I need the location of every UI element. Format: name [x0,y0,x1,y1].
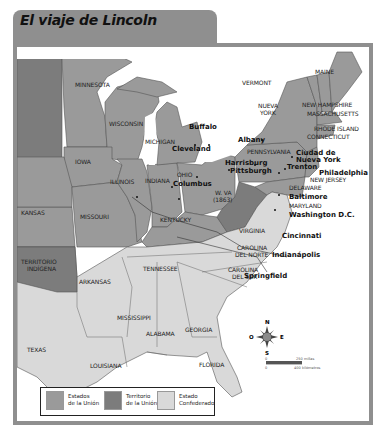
label-ohio: OHIO [177,171,193,178]
map-title: El viaje de Lincoln [20,12,157,28]
city-cleveland: Cleveland [172,145,211,153]
city-trenton: Trenton [287,163,317,171]
legend-label-confederate: Estado Confederado [179,393,214,407]
label-georgia: GEORGIA [185,326,213,333]
label-michigan: MICHIGAN [145,138,175,145]
compass-s: S [265,350,269,356]
svg-text:400: 400 [294,366,301,370]
label-pennsylvania: PENNSYLVANIA [247,148,292,155]
label-mississippi: MISSISSIPPI [117,314,151,321]
label-iowa: IOWA [75,158,92,165]
map-legend: Estados de la Unión Territorio de la Uni… [40,387,215,416]
label-tennessee: TENNESSEE [142,265,178,272]
legend-label-union: Estados de la Unión [68,393,99,407]
label-kansas: KANSAS [21,209,45,216]
label-florida: FLORIDA [199,361,225,368]
label-missouri: MISSOURI [80,213,109,220]
label-rhode-island: RHODE ISLAND [314,125,359,132]
label-minnesota: MINNESOTA [75,81,111,88]
legend-swatch-union [46,391,64,410]
label-nc-2: DEL NORTE [235,251,268,258]
city-harrisburg: Harrisburg [225,159,268,167]
state-michigan [154,102,202,165]
svg-text:kilómetros: kilómetros [302,366,321,370]
map-canvas: MINNESOTA WISCONSIN MICHIGAN IOWA ILLINO… [17,47,369,421]
label-maine: MAINE [315,68,334,75]
label-delaware: DELAWARE [289,184,322,191]
label-ny-2: YORK [259,109,277,116]
state-nebraska [17,157,72,207]
label-wva-1: W. VA [215,189,232,196]
label-illinois: ILLINOIS [110,178,135,185]
legend-swatch-confederate [157,391,175,410]
label-arkansas: ARKANSAS [79,278,111,285]
scale-bar: 0 250 millas 0 400 kilómetros [265,357,321,370]
compass-rose-icon: N S E O [249,319,284,356]
label-vermont: VERMONT [242,79,272,86]
city-pittsburgh: Pittsburgh [230,167,272,175]
label-wva-2: (1863) [213,196,232,203]
svg-text:250: 250 [296,357,303,361]
label-new-hampshire: NEW HAMPSHIRE [302,101,353,108]
label-ny-1: NUEVA [258,102,279,109]
label-massachusetts: MASSACHUSETTS [307,110,359,117]
city-baltimore: Baltimore [289,193,328,201]
label-indian-territory-2: INDÍGENA [27,265,57,272]
compass-e: E [280,334,284,340]
label-virginia: VIRGINIA [239,227,266,234]
city-cincinnati: Cincinnati [282,232,322,240]
city-columbus: Columbus [173,180,212,188]
label-wisconsin: WISCONSIN [109,120,143,127]
city-springfield: Springfield [244,272,287,280]
label-connecticut: CONNECTICUT [307,133,350,140]
compass-n: N [265,319,270,325]
label-new-jersey: NEW JERSEY [310,176,347,184]
label-kentucky: KENTUCKY [160,216,191,223]
svg-text:0: 0 [265,357,267,361]
label-nc-1: CAROLINA [237,244,268,251]
label-louisiana: LOUISIANA [90,362,122,369]
label-indiana: INDIANA [145,177,171,184]
city-indianapolis: Indianápolis [272,251,320,259]
label-alabama: ALABAMA [146,330,175,337]
compass-w: O [249,334,254,340]
city-washington: Washington D.C. [289,211,355,219]
legend-label-territory: Territorio de la Unión [126,393,157,407]
label-indian-territory-1: TERRITORIO [20,258,57,265]
label-maryland: MARYLAND [289,202,322,209]
city-philadelphia: Philadelphia [319,169,368,177]
svg-text:millas: millas [304,357,314,361]
svg-text:0: 0 [265,366,267,370]
legend-swatch-territory [104,391,122,410]
city-buffalo: Buffalo [189,123,217,131]
label-texas: TEXAS [26,346,46,353]
